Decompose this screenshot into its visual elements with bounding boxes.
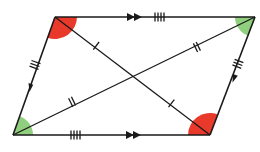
parallelogram-diagram (0, 0, 260, 152)
ticks-diagonal-bl-tr (69, 42, 201, 107)
angle-bottom-right-red (188, 113, 217, 135)
ticks-diagonal-tl-br (93, 42, 174, 107)
double-arrow-icon (133, 131, 141, 139)
ticks-right-3 (232, 59, 243, 68)
side-right (210, 17, 255, 135)
double-arrow-icon (134, 13, 142, 21)
double-arrow-icon (126, 131, 134, 139)
angle-top-left-red (48, 17, 77, 39)
double-arrow-icon (127, 13, 135, 21)
arrow-down-icon (233, 74, 238, 83)
diagonal-tl-br (55, 17, 210, 135)
